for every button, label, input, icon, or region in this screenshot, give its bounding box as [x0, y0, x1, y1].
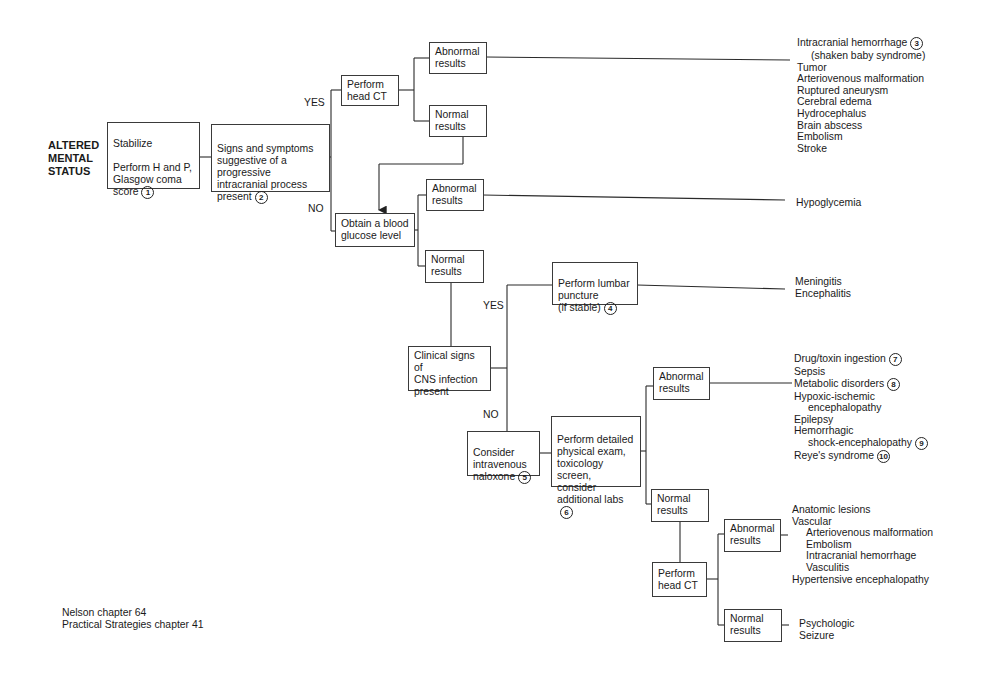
references: Nelson chapter 64 Practical Strategies c…	[62, 607, 204, 631]
glucose-box: Obtain a blood glucose level	[335, 213, 415, 247]
outcome-item: Embolism	[792, 539, 933, 551]
outcome-item: shock-encephalopathy9	[794, 437, 928, 450]
note-2-icon: 2	[255, 191, 268, 204]
glucose-abnormal-outcomes: Hypoglycemia	[796, 197, 861, 209]
outcome-item: Sepsis	[794, 366, 928, 378]
abnormal-results-box-2: Abnormal results	[426, 179, 484, 211]
head-ct2-normal-outcomes: Psychologic Seizure	[799, 618, 854, 641]
outcome-item: Embolism	[797, 131, 925, 143]
chart-title: ALTERED MENTAL STATUS	[48, 139, 99, 178]
outcome-item: Seizure	[799, 630, 854, 642]
outcome-item: Tumor	[797, 62, 925, 74]
note-10-icon: 10	[877, 450, 890, 463]
normal-results-box-4: Normal results	[724, 609, 782, 642]
outcome-item: Anatomic lesions	[792, 504, 933, 516]
detailed-exam-box: Perform detailed physical exam, toxicolo…	[551, 416, 641, 487]
outcome-item: Psychologic	[799, 618, 854, 630]
signs-box: Signs and symptoms suggestive of a progr…	[211, 124, 330, 192]
detailed-text: Perform detailed physical exam, toxicolo…	[557, 434, 633, 505]
head-ct-box-1: Perform head CT	[341, 75, 399, 106]
outcome-item: Stroke	[797, 143, 925, 155]
abnormal-results-box-3: Abnormal results	[653, 367, 710, 400]
yes-label-2: YES	[483, 300, 504, 312]
outcome-item: Encephalitis	[795, 288, 851, 300]
cns-infection-box: Clinical signs of CNS infection present	[408, 346, 491, 391]
yes-label-1: YES	[304, 97, 325, 109]
outcome-item: Intracranial hemorrhage3	[797, 37, 925, 50]
no-label-1: NO	[308, 203, 324, 215]
outcome-item: (shaken baby syndrome)	[797, 50, 925, 62]
outcome-item: Cerebral edema	[797, 96, 925, 108]
outcome-item: Hypoxic-ischemic	[794, 391, 928, 403]
head-ct-abnormal-outcomes: Intracranial hemorrhage3 (shaken baby sy…	[797, 37, 925, 154]
outcome-item: Vasculitis	[792, 562, 933, 574]
note-3-icon: 3	[910, 37, 923, 50]
outcome-item: Arteriovenous malformation	[792, 527, 933, 539]
outcome-item: Meningitis	[795, 276, 851, 288]
abnormal-results-box-4: Abnormal results	[724, 519, 781, 552]
stabilize-text: Stabilize	[113, 138, 152, 149]
abnormal-results-box-1: Abnormal results	[429, 42, 487, 74]
outcome-item: Arteriovenous malformation	[797, 73, 925, 85]
naloxone-box: Consider intravenous naloxone5	[467, 431, 540, 476]
outcome-item: Vascular	[792, 516, 933, 528]
outcome-item: Reye's syndrome10	[794, 450, 928, 463]
detailed-abnormal-outcomes: Drug/toxin ingestion7 Sepsis Metabolic d…	[794, 353, 928, 463]
outcome-item: Drug/toxin ingestion7	[794, 353, 928, 366]
outcome-item: Hemorrhagic	[794, 425, 928, 437]
outcome-item: Intracranial hemorrhage	[792, 550, 933, 562]
lumbar-text: Perform lumbar puncture (if stable)	[558, 278, 630, 313]
outcome-item: Hypertensive encephalopathy	[792, 574, 933, 586]
stabilize-box: StabilizePerform H and P, Glasgow coma s…	[107, 122, 200, 189]
outcome-item: Hydrocephalus	[797, 108, 925, 120]
reference-practical: Practical Strategies chapter 41	[62, 619, 204, 631]
outcome-item: Metabolic disorders8	[794, 378, 928, 391]
note-1-icon: 1	[141, 186, 154, 199]
normal-results-box-1: Normal results	[429, 105, 487, 137]
outcome-item: Brain abscess	[797, 120, 925, 132]
note-8-icon: 8	[887, 378, 900, 391]
reference-nelson: Nelson chapter 64	[62, 607, 204, 619]
note-5-icon: 5	[518, 471, 531, 484]
no-label-2: NO	[483, 409, 499, 421]
note-6-icon: 6	[560, 506, 573, 519]
lumbar-puncture-box: Perform lumbar puncture (if stable)4	[552, 262, 638, 305]
note-4-icon: 4	[604, 302, 617, 315]
normal-results-box-3: Normal results	[651, 489, 709, 522]
outcome-item: Epilepsy	[794, 414, 928, 426]
outcome-item: Ruptured aneurysm	[797, 85, 925, 97]
head-ct-box-2: Perform head CT	[652, 562, 707, 597]
note-9-icon: 9	[915, 437, 928, 450]
normal-results-box-2: Normal results	[425, 250, 484, 283]
lumbar-outcomes: Meningitis Encephalitis	[795, 276, 851, 299]
outcome-item: Hypoglycemia	[796, 197, 861, 209]
head-ct2-abnormal-outcomes: Anatomic lesions Vascular Arteriovenous …	[792, 504, 933, 585]
note-7-icon: 7	[889, 353, 902, 366]
outcome-item: encephalopathy	[794, 402, 928, 414]
